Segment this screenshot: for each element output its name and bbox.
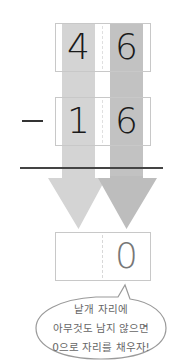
operator-label: − xyxy=(2,110,52,130)
bubble-line-1: 낱개 자리에 xyxy=(38,300,164,319)
bubble-line-2: 아무것도 남지 않으면 xyxy=(38,319,164,338)
speech-bubble-text: 낱개 자리에 아무것도 남지 않으면 0으로 자리를 채우자! xyxy=(38,300,164,357)
bubble-line-3: 0으로 자리를 채우자! xyxy=(38,338,164,357)
